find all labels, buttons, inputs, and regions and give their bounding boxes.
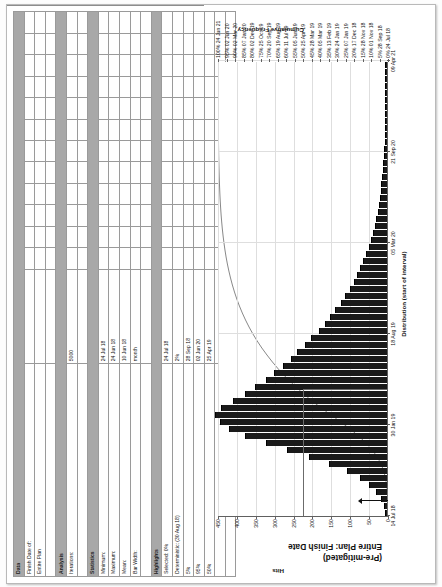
chart-title: (Pre-mitigated) Entire Plan: Finish Date — [288, 542, 382, 563]
table-cell-empty — [162, 12, 173, 34]
table-cell-empty — [130, 76, 141, 97]
table-cell-empty — [162, 33, 173, 54]
table-cell-empty — [162, 55, 173, 76]
table-cell-empty — [172, 119, 183, 140]
cumulative-axis-tick-label: 15% 28 Nov 18 — [360, 23, 366, 58]
histogram-bar — [311, 335, 387, 341]
cumulative-axis-tick-label: 10% 01 Nov 18 — [368, 23, 374, 58]
table-row-value: 24 Jul 18 — [98, 269, 109, 363]
table-cell-empty — [119, 140, 130, 161]
table-row-label — [45, 364, 56, 577]
table-cell-empty — [77, 226, 88, 247]
table-row-label: Entire Plan — [35, 364, 46, 577]
histogram-bar — [378, 209, 387, 215]
table-cell-empty — [194, 119, 205, 140]
percentile-callout-vertical — [303, 389, 388, 390]
y-axis-tick-label: 200 — [309, 519, 315, 528]
table-cell-empty — [172, 76, 183, 97]
table-row: Selected: 0%24 Jul 18 — [162, 12, 173, 577]
histogram-bar — [319, 328, 387, 334]
histogram-bar — [221, 405, 387, 411]
table-row-label: Minimum: — [98, 364, 109, 577]
histogram-bar — [385, 62, 387, 68]
histogram-bar — [385, 510, 387, 516]
gridline-horizontal — [275, 62, 276, 516]
table-cell-empty — [183, 76, 194, 97]
histogram-bar — [381, 188, 387, 194]
table-cell-empty — [98, 183, 109, 204]
table-cell-empty — [24, 12, 35, 34]
table-cell-empty — [66, 98, 77, 119]
histogram-bar — [376, 489, 387, 495]
table-cell-empty — [109, 12, 120, 34]
table-row — [141, 12, 152, 577]
table-cell-empty — [98, 140, 109, 161]
histogram-bar — [335, 307, 387, 313]
cumulative-axis-tick-label: 75% 25 Oct 19 — [258, 24, 264, 58]
histogram-bar — [385, 90, 387, 96]
table-cell-empty — [98, 55, 109, 76]
cumulative-axis-tick-mark — [354, 59, 355, 62]
y-axis-tick-label: 300 — [272, 519, 278, 528]
histogram-bar — [360, 265, 387, 271]
table-cell-empty — [141, 205, 152, 226]
table-section-header-row: Statistics — [88, 12, 99, 577]
table-cell-empty — [119, 183, 130, 204]
table-section-header: Data — [14, 12, 25, 577]
table-row: 95%02 Jun 20 — [194, 12, 205, 577]
table-cell-empty — [119, 162, 130, 183]
cumulative-axis-tick-mark — [363, 59, 364, 62]
x-axis-tick-label: 05 Mar 20 — [390, 231, 396, 254]
table-row: Minimum:24 Jul 18 — [98, 12, 109, 577]
histogram-bar — [215, 412, 387, 418]
table-cell-empty — [194, 33, 205, 54]
table-cell-empty — [109, 33, 120, 54]
histogram-bar — [291, 356, 387, 362]
table-row-value: 10 Jun 18 — [119, 269, 130, 363]
table-cell-empty — [141, 162, 152, 183]
table-cell-empty — [172, 226, 183, 247]
table-cell-empty — [45, 33, 56, 54]
gridline-horizontal — [237, 62, 238, 516]
table-cell-empty — [77, 183, 88, 204]
table-section-header: Statistics — [88, 12, 99, 577]
cumulative-axis-tick-label: 65% 19 Aug 19 — [275, 23, 281, 58]
table-cell-empty — [24, 76, 35, 97]
table-cell-empty — [66, 226, 77, 247]
table-cell-empty — [194, 248, 205, 269]
table-cell-empty — [194, 205, 205, 226]
cumulative-axis-tick-label: 60% 11 Jul 19 — [283, 26, 289, 59]
y-axis-tick-label: 50 — [366, 519, 372, 525]
gridline-vertical — [218, 242, 387, 243]
table-cell-empty — [162, 119, 173, 140]
histogram-bar — [245, 391, 387, 397]
histogram-bar — [369, 244, 387, 250]
table-cell-empty — [119, 119, 130, 140]
table-cell-empty — [45, 55, 56, 76]
cumulative-axis-tick-label: 5% 28 Sep 18 — [377, 25, 383, 58]
table-cell-empty — [141, 98, 152, 119]
table-cell-empty — [35, 140, 46, 161]
table-cell-empty — [172, 183, 183, 204]
table-row: Mean:10 Jun 18 — [119, 12, 130, 577]
table-cell-empty — [194, 226, 205, 247]
table-cell-empty — [141, 248, 152, 269]
table-cell-empty — [24, 98, 35, 119]
table-cell-empty — [66, 205, 77, 226]
histogram-bar — [385, 104, 387, 110]
histogram-bar — [384, 146, 387, 152]
cumulative-axis-tick-label: 45% 28 Mar 19 — [309, 23, 315, 58]
table-cell-empty — [98, 226, 109, 247]
cumulative-axis-tick-mark — [371, 59, 372, 62]
table-row: Deterministic: (30 Aug 18)2% — [172, 12, 183, 577]
histogram-bar — [345, 293, 387, 299]
table-cell-empty — [183, 162, 194, 183]
cumulative-axis-tick-label: 40% 05 Mar 19 — [317, 23, 323, 58]
cumulative-axis-tick-label: 55% 05 Jun 19 — [292, 23, 298, 58]
cumulative-axis-tick-mark — [337, 59, 338, 62]
deterministic-marker-arrow — [358, 498, 362, 504]
table-cell-empty — [77, 248, 88, 269]
table-cell-empty — [109, 248, 120, 269]
table-cell-empty — [98, 162, 109, 183]
table-cell-empty — [130, 205, 141, 226]
